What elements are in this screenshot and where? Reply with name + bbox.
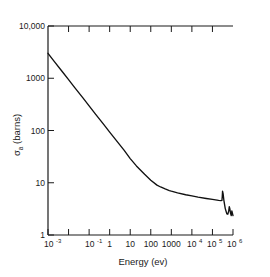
y-tick-label: 100 <box>31 126 45 136</box>
x-axis-top-ticks <box>69 26 213 32</box>
x-tick-mantissa: 10 <box>44 239 54 249</box>
x-tick-label: 100 <box>144 239 158 249</box>
y-tick-labels: 10,000 1000 100 10 1 <box>19 21 45 240</box>
x-tick-label-group: 10 6 <box>227 238 243 249</box>
x-tick-exponent: -1 <box>97 238 103 244</box>
x-axis-title: Energy (ev) <box>118 256 167 267</box>
figure-container: 10,000 1000 100 10 1 10 -3 10 -1 1 10 10… <box>0 0 270 277</box>
x-tick-label-group: 10 -1 <box>85 238 103 249</box>
x-tick-mantissa: 10 <box>85 239 95 249</box>
cross-section-plot: 10,000 1000 100 10 1 10 -3 10 -1 1 10 10… <box>0 0 270 277</box>
x-tick-label: 1 <box>107 239 112 249</box>
x-tick-exponent: 5 <box>219 238 223 244</box>
x-tick-labels: 10 -3 10 -1 1 10 100 1000 10 4 10 5 10 6 <box>44 238 243 249</box>
plot-frame <box>48 26 233 235</box>
x-tick-exponent: 4 <box>199 238 203 244</box>
x-tick-mantissa: 10 <box>207 239 217 249</box>
x-tick-label: 1000 <box>162 239 181 249</box>
y-axis-unit-text: (barns) <box>11 114 22 144</box>
data-series-line <box>48 53 233 215</box>
y-tick-label: 10 <box>36 178 46 188</box>
x-axis-ticks <box>48 229 233 235</box>
y-tick-label: 1000 <box>26 73 45 83</box>
x-tick-mantissa: 10 <box>227 239 237 249</box>
x-tick-label-group: 10 4 <box>187 238 203 249</box>
x-tick-exponent: 6 <box>239 238 243 244</box>
y-axis-title: σa (barns) <box>11 114 24 156</box>
svg-text:σa (barns): σa (barns) <box>11 114 24 156</box>
x-tick-exponent: -3 <box>56 238 62 244</box>
x-tick-label: 10 <box>125 239 135 249</box>
y-tick-label: 10,000 <box>19 21 45 31</box>
x-tick-label-group: 10 5 <box>207 238 223 249</box>
x-tick-label-group: 10 -3 <box>44 238 62 249</box>
x-tick-mantissa: 10 <box>187 239 197 249</box>
